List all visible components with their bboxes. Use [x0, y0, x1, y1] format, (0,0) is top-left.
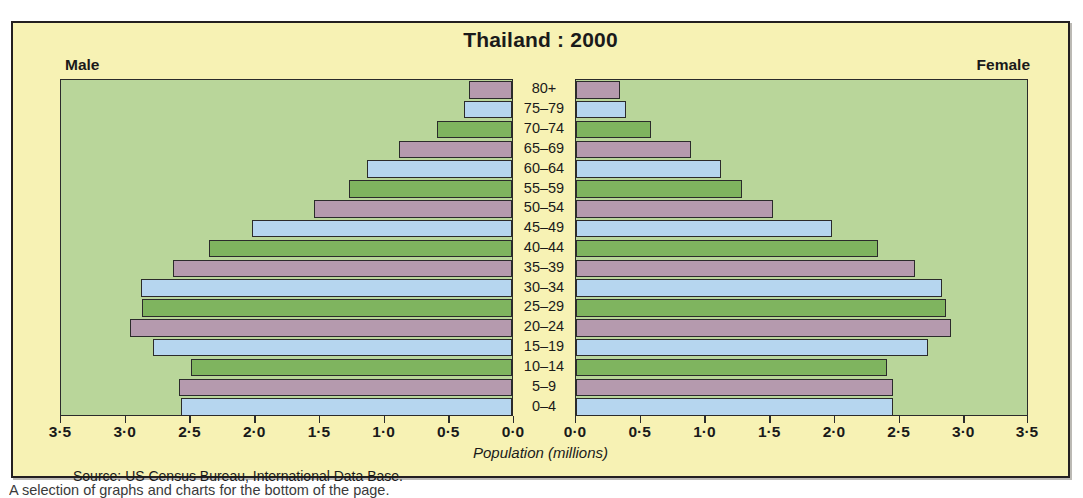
- bar-female-30-34: [576, 279, 942, 296]
- bar-male-45-49: [252, 220, 512, 237]
- bar-female-65-69: [576, 141, 691, 158]
- xtick-female-3-tick: [769, 416, 770, 423]
- xtick-female-6-label: 3·0: [933, 423, 993, 441]
- xtick-male-5-tick: [384, 416, 385, 423]
- xtick-female-0-label: 0·0: [545, 423, 605, 441]
- bar-male-10-14: [191, 359, 512, 376]
- age-label-60-64: 60–64: [513, 161, 575, 176]
- age-label-40-44: 40–44: [513, 240, 575, 255]
- age-label-20-24: 20–24: [513, 319, 575, 334]
- xtick-male-0-label: 3·5: [30, 423, 90, 441]
- age-label-15-19: 15–19: [513, 339, 575, 354]
- bar-male-0-4: [181, 398, 512, 415]
- age-label-65-69: 65–69: [513, 141, 575, 156]
- bar-female-50-54: [576, 200, 773, 217]
- xtick-female-0-tick: [575, 416, 576, 423]
- xtick-female-5-tick: [899, 416, 900, 423]
- female-plot-half: [575, 79, 1028, 416]
- age-label-25-29: 25–29: [513, 299, 575, 314]
- xtick-male-0-tick: [60, 416, 61, 423]
- age-label-75-79: 75–79: [513, 101, 575, 116]
- chart-title: Thailand : 2000: [13, 28, 1068, 52]
- xtick-female-7-label: 3·5: [997, 423, 1057, 441]
- xtick-female-4-tick: [834, 416, 835, 423]
- xtick-male-3-tick: [254, 416, 255, 423]
- xtick-female-2-label: 1·0: [674, 423, 734, 441]
- bar-male-60-64: [367, 160, 512, 177]
- bar-male-20-24: [130, 319, 512, 336]
- xtick-female-7-tick: [1027, 416, 1028, 423]
- xtick-male-7-label: 0·0: [483, 423, 543, 441]
- bar-male-55-59: [349, 180, 512, 197]
- age-label-45-49: 45–49: [513, 220, 575, 235]
- xtick-male-2-tick: [189, 416, 190, 423]
- bar-female-40-44: [576, 240, 878, 257]
- bar-female-25-29: [576, 299, 946, 316]
- xtick-female-5-label: 2·5: [869, 423, 929, 441]
- bar-female-10-14: [576, 359, 887, 376]
- bar-female-15-19: [576, 339, 928, 356]
- bar-male-15-19: [153, 339, 512, 356]
- xtick-female-1-label: 0·5: [610, 423, 670, 441]
- xtick-male-1-label: 3·0: [95, 423, 155, 441]
- bar-female-20-24: [576, 319, 951, 336]
- xtick-male-7-tick: [513, 416, 514, 423]
- xtick-male-2-label: 2·5: [159, 423, 219, 441]
- xtick-female-3-label: 1·5: [739, 423, 799, 441]
- xtick-female-2-tick: [704, 416, 705, 423]
- male-side-label: Male: [65, 56, 99, 74]
- xtick-male-6-tick: [448, 416, 449, 423]
- bar-male-35-39: [173, 260, 512, 277]
- female-side-label: Female: [977, 56, 1030, 74]
- age-label-5-9: 5–9: [513, 379, 575, 394]
- xtick-male-5-label: 1·0: [354, 423, 414, 441]
- bar-female-0-4: [576, 398, 893, 415]
- bar-female-80+: [576, 81, 620, 98]
- xtick-female-1-tick: [640, 416, 641, 423]
- age-label-0-4: 0–4: [513, 399, 575, 414]
- bar-female-55-59: [576, 180, 742, 197]
- xtick-female-4-label: 2·0: [804, 423, 864, 441]
- bar-male-25-29: [142, 299, 512, 316]
- bar-male-75-79: [464, 101, 512, 118]
- population-pyramid-figure: Thailand : 2000 Male Female 80+75–7970–7…: [0, 0, 1083, 498]
- page-text-fragment: A selection of graphs and charts for the…: [9, 482, 1079, 498]
- age-label-70-74: 70–74: [513, 121, 575, 136]
- age-label-80+: 80+: [513, 81, 575, 96]
- age-group-axis: 80+75–7970–7465–6960–6455–5950–5445–4940…: [513, 79, 575, 416]
- plot-area: 80+75–7970–7465–6960–6455–5950–5445–4940…: [60, 79, 1028, 416]
- bar-female-45-49: [576, 220, 832, 237]
- bar-female-5-9: [576, 379, 893, 396]
- xtick-male-4-tick: [319, 416, 320, 423]
- bar-male-80+: [469, 81, 512, 98]
- bar-male-50-54: [314, 200, 512, 217]
- age-label-35-39: 35–39: [513, 260, 575, 275]
- bar-female-70-74: [576, 121, 651, 138]
- age-label-10-14: 10–14: [513, 359, 575, 374]
- age-label-30-34: 30–34: [513, 280, 575, 295]
- male-plot-half: [60, 79, 513, 416]
- bar-male-40-44: [209, 240, 512, 257]
- bar-female-75-79: [576, 101, 626, 118]
- xtick-male-6-label: 0·5: [418, 423, 478, 441]
- x-axis: 3·53·02·52·01·51·00·50·00·00·51·01·52·02…: [60, 416, 1028, 442]
- bar-female-35-39: [576, 260, 915, 277]
- age-label-55-59: 55–59: [513, 181, 575, 196]
- bar-male-65-69: [399, 141, 512, 158]
- bar-male-70-74: [437, 121, 512, 138]
- age-label-50-54: 50–54: [513, 200, 575, 215]
- xtick-male-4-label: 1·5: [289, 423, 349, 441]
- bar-male-30-34: [141, 279, 512, 296]
- bar-male-5-9: [179, 379, 512, 396]
- x-axis-title: Population (millions): [13, 444, 1068, 461]
- xtick-male-1-tick: [125, 416, 126, 423]
- bar-female-60-64: [576, 160, 721, 177]
- xtick-male-3-label: 2·0: [224, 423, 284, 441]
- chart-panel: Thailand : 2000 Male Female 80+75–7970–7…: [11, 21, 1070, 478]
- xtick-female-6-tick: [963, 416, 964, 423]
